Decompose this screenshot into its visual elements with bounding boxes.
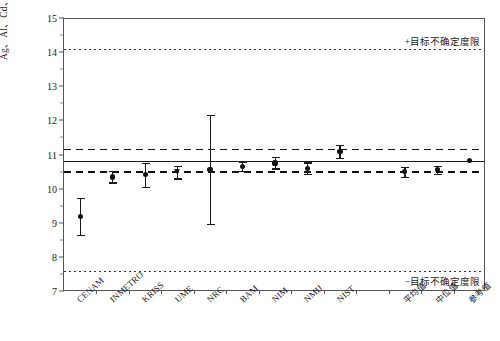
marker-circle — [305, 166, 310, 171]
y-tick-label-8: 8 — [31, 251, 57, 262]
y-tick-label-7: 7 — [31, 286, 57, 297]
error-bar-cap-upper — [401, 167, 409, 168]
y-tick-label-12: 12 — [31, 115, 57, 126]
marker-circle — [240, 164, 245, 169]
marker-circle — [143, 172, 148, 177]
error-bar-cap-lower — [109, 182, 117, 183]
marker-circle — [207, 167, 212, 172]
error-bar-cap-upper — [109, 171, 117, 172]
error-bar-cap-lower — [434, 174, 442, 175]
error-bar-cap-upper — [142, 163, 150, 164]
error-bar-cap-lower — [304, 174, 312, 175]
marker-triangle — [174, 169, 180, 174]
marker-circle — [272, 160, 277, 165]
error-bar-cap-lower — [401, 177, 409, 178]
y-tick-label-15: 15 — [31, 13, 57, 24]
x-tick-mark — [291, 290, 292, 294]
reference-line-dashed-1 — [64, 149, 484, 151]
reference-line-dotted-4 — [64, 271, 484, 272]
error-bar-cap-upper — [174, 166, 182, 167]
error-bar-cap-lower — [174, 178, 182, 179]
marker-circle — [110, 174, 115, 179]
y-tick-label-14: 14 — [31, 47, 57, 58]
error-bar-cap-lower — [207, 224, 215, 225]
y-tick-label-11: 11 — [31, 149, 57, 160]
marker-circle — [402, 169, 407, 174]
error-bar-cap-lower — [272, 168, 280, 169]
marker-circle — [467, 158, 472, 163]
y-tick-label-13: 13 — [31, 81, 57, 92]
error-bar-cap-upper — [272, 157, 280, 158]
reference-line-dashed-2 — [64, 171, 484, 173]
error-bar-cap-upper — [336, 145, 344, 146]
x-tick-mark — [389, 290, 390, 294]
error-bar-cap-lower — [142, 187, 150, 188]
error-bar-cap-upper — [207, 115, 215, 116]
reference-line-dotted-3 — [64, 49, 484, 50]
error-bar-cap-lower — [336, 158, 344, 159]
marker-circle — [78, 214, 83, 219]
error-bar-cap-upper — [304, 162, 312, 163]
annotation-0: +目标不确定度限 — [405, 34, 480, 48]
y-tick-label-10: 10 — [31, 183, 57, 194]
marker-circle — [337, 149, 342, 154]
plot-area: +目标不确定度限−目标不确定度限 — [63, 18, 485, 291]
y-tick-label-9: 9 — [31, 217, 57, 228]
y-axis-title: Ag、Al、Cd、Cr、Ni、Tl质量分数之和（mg/kg） — [0, 0, 10, 60]
error-bar-cap-upper — [239, 162, 247, 163]
error-bar-cap-lower — [239, 171, 247, 172]
error-bar-cap-lower — [77, 235, 85, 236]
uncertainty-comparison-chart: Ag、Al、Cd、Cr、Ni、Tl质量分数之和（mg/kg） 151413121… — [0, 0, 500, 341]
x-tick-mark — [226, 290, 227, 294]
error-bar-cap-upper — [77, 198, 85, 199]
